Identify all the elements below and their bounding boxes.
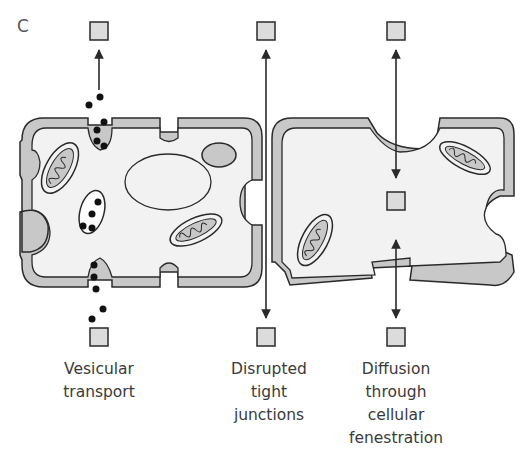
label-line: Disrupted — [214, 358, 324, 381]
label-line: through — [341, 381, 451, 404]
label-line: Vesicular — [44, 358, 154, 381]
label-vesicular-transport: Vesicular transport — [44, 358, 154, 404]
label-line: cellular — [341, 404, 451, 427]
left-cell — [20, 118, 262, 293]
label-diffusion-fenestration: Diffusion through cellular fenestration — [341, 358, 451, 450]
label-line: tight — [214, 381, 324, 404]
label-line: Diffusion — [341, 358, 451, 381]
label-line: transport — [44, 381, 154, 404]
molecule-box-bottom — [90, 328, 108, 346]
label-line: junctions — [214, 404, 324, 427]
label-disrupted-tight-junctions: Disrupted tight junctions — [214, 358, 324, 427]
molecule-box-top — [90, 22, 108, 40]
label-line: fenestration — [341, 427, 451, 450]
